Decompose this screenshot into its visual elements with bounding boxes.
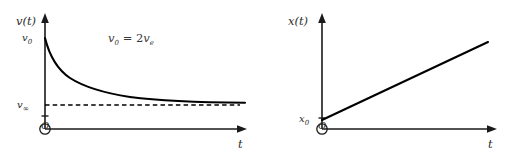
- position-y-axis-arrowhead: [318, 13, 326, 23]
- velocity-y-axis-arrowhead: [41, 13, 49, 23]
- velocity-asymptote-value-label: v∞: [17, 99, 29, 113]
- position-initial-value-label: x0: [299, 113, 310, 127]
- velocity-time-plot-panel: v(t) v0 v∞ t v0 = 2ve O: [0, 0, 262, 159]
- position-origin-label: O: [318, 120, 326, 131]
- position-x-axis-label: t: [488, 137, 493, 151]
- velocity-decay-curve: [45, 38, 245, 103]
- velocity-x-axis-arrowhead: [237, 125, 247, 133]
- position-x-axis-arrowhead: [487, 125, 497, 133]
- velocity-annotation-equation: v0 = 2ve: [108, 31, 154, 47]
- velocity-x-axis-label: t: [238, 137, 243, 151]
- position-linear-curve: [322, 42, 488, 120]
- position-y-axis-label: x(t): [288, 14, 308, 28]
- position-time-plot-panel: x(t) x0 t O: [262, 0, 525, 159]
- physics-figure-pair: v(t) v0 v∞ t v0 = 2ve O: [0, 0, 525, 159]
- velocity-origin-label: O: [41, 120, 49, 131]
- velocity-initial-value-label: v0: [22, 32, 33, 46]
- velocity-y-axis-label: v(t): [16, 14, 36, 28]
